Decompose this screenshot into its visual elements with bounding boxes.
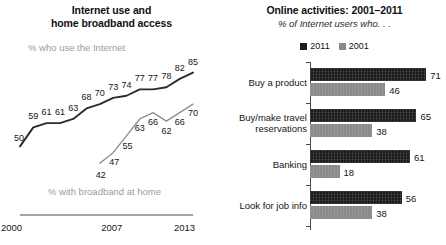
bar-2001 [310,83,385,96]
data-point-label: 66 [148,117,158,127]
data-point-label: 62 [161,126,171,136]
data-point-label: 74 [121,80,131,90]
bar-2011 [310,191,402,204]
data-point-label: 50 [14,133,24,143]
bar-2001 [310,206,372,219]
data-point-label: 61 [55,107,65,117]
bar-value-label: 65 [420,110,431,121]
bar-2011 [310,150,410,163]
data-point-label: 82 [175,63,185,73]
bar-axis-tick [306,226,311,227]
data-point-label: 63 [135,123,145,133]
data-point-label: 70 [95,88,105,98]
data-point-label: 61 [42,107,52,117]
data-point-label: 68 [81,92,91,102]
data-point-label: 73 [108,82,118,92]
data-point-label: 47 [109,157,119,167]
figure-root: Internet use and home broadband access %… [0,0,446,245]
data-point-label: 77 [135,73,145,83]
bar-value-label: 61 [414,151,425,162]
bar-value-label: 38 [376,125,387,136]
bar-axis-tick [306,185,311,186]
data-point-label: 66 [175,117,185,127]
bar-category-label: Buy/make travelreservations [239,112,307,134]
bar-2011 [310,109,416,122]
bar-chart-panel: Online activities: 2001–2011 % of Intern… [223,0,446,245]
bar-category-label: Buy a product [248,77,307,88]
bar-axis-tick [306,144,311,145]
data-point-label: 70 [188,108,198,118]
bar-category-label: Look for job info [239,200,307,211]
bar-axis-tick [306,62,311,63]
bar-2011 [310,68,426,81]
data-point-label: 78 [161,71,171,81]
bar-category-label: Banking [273,159,307,170]
x-axis-tick-label: 2000 [1,222,22,233]
bar-value-label: 56 [406,192,417,203]
bar-axis-tick [306,103,311,104]
bar-value-label: 71 [430,69,441,80]
bar-value-label: 18 [344,166,355,177]
data-point-label: 55 [122,141,132,151]
bar-2001 [310,124,372,137]
line-chart-plot [0,0,223,245]
bar-2001 [310,165,340,178]
data-point-label: 63 [68,103,78,113]
data-point-label: 77 [148,73,158,83]
x-axis-tick-label: 2013 [174,222,195,233]
bar-chart-plot: Buy a product7146Buy/make travelreservat… [223,0,446,245]
data-point-label: 42 [96,170,106,180]
x-axis-tick-label: 2007 [101,222,122,233]
data-point-label: 85 [188,57,198,67]
bar-value-label: 46 [389,84,400,95]
bar-value-label: 38 [376,207,387,218]
data-point-label: 59 [28,111,38,121]
line-chart-panel: Internet use and home broadband access %… [0,0,223,245]
line-series-broadband [100,104,193,163]
